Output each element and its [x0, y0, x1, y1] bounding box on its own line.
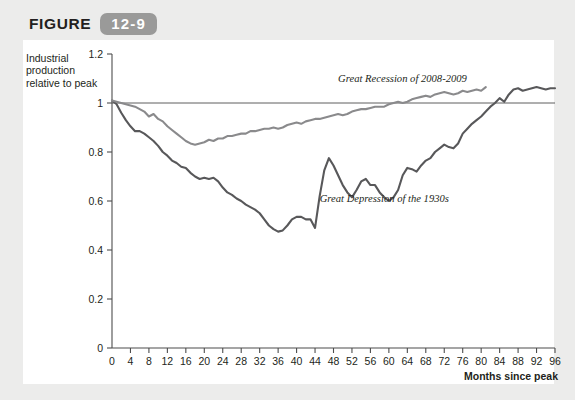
- x-tick-label: 4: [128, 355, 134, 367]
- x-axis-ticks: 0481216202428323640444852566064687276808…: [109, 348, 561, 367]
- x-tick-label: 36: [272, 355, 284, 367]
- x-tick-label: 88: [512, 355, 524, 367]
- x-tick-label: 60: [383, 355, 395, 367]
- y-tick-label: 1.2: [88, 48, 103, 60]
- y-tick-label: 0.2: [88, 293, 103, 305]
- y-tick-label: 0.6: [88, 195, 103, 207]
- x-tick-label: 68: [420, 355, 432, 367]
- figure-container: FIGURE 12-9 Industrial production relati…: [0, 0, 575, 400]
- x-tick-label: 48: [328, 355, 340, 367]
- y-tick-label: 0.8: [88, 146, 103, 158]
- y-axis-ticks: 00.20.40.60.811.2: [88, 48, 112, 354]
- x-tick-label: 12: [162, 355, 174, 367]
- x-tick-label: 92: [531, 355, 543, 367]
- x-tick-label: 52: [346, 355, 358, 367]
- y-tick-label: 0: [97, 342, 103, 354]
- x-tick-label: 16: [180, 355, 192, 367]
- x-tick-label: 76: [457, 355, 469, 367]
- y-tick-label: 0.4: [88, 244, 103, 256]
- series-annotation-great-depression: Great Depression of the 1930s: [320, 193, 449, 204]
- series-line-great-recession: [112, 87, 486, 145]
- line-chart: 00.20.40.60.811.2 0481216202428323640444…: [0, 0, 575, 400]
- x-axis-title: Months since peak: [464, 370, 558, 382]
- x-tick-label: 84: [494, 355, 506, 367]
- x-tick-label: 56: [365, 355, 377, 367]
- x-tick-label: 40: [291, 355, 303, 367]
- x-tick-label: 0: [109, 355, 115, 367]
- x-tick-label: 24: [217, 355, 229, 367]
- x-tick-label: 64: [401, 355, 413, 367]
- x-tick-label: 72: [438, 355, 450, 367]
- series-annotation-great-recession: Great Recession of 2008-2009: [338, 73, 467, 84]
- x-tick-label: 20: [198, 355, 210, 367]
- x-tick-label: 96: [549, 355, 561, 367]
- x-tick-label: 44: [309, 355, 321, 367]
- x-tick-label: 32: [254, 355, 266, 367]
- y-tick-label: 1: [97, 97, 103, 109]
- series-line-great-depression: [112, 87, 555, 232]
- x-tick-label: 28: [235, 355, 247, 367]
- x-tick-label: 8: [146, 355, 152, 367]
- x-tick-label: 80: [475, 355, 487, 367]
